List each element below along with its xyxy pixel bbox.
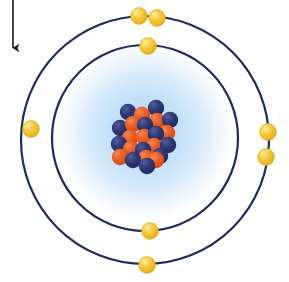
electron-particle[interactable] bbox=[142, 223, 159, 240]
neutron-particle bbox=[139, 158, 155, 174]
atom-diagram-canvas: Bohr model of the atom bbox=[0, 0, 289, 282]
electron-particle[interactable] bbox=[149, 10, 166, 27]
electron-particle[interactable] bbox=[23, 121, 40, 138]
electron-particle[interactable] bbox=[139, 257, 156, 274]
bohr-model-illustration bbox=[0, 0, 289, 282]
electron-particle[interactable] bbox=[140, 38, 157, 55]
electron-particle[interactable] bbox=[258, 149, 275, 166]
neutron-particle bbox=[125, 152, 141, 168]
electron-particle[interactable] bbox=[131, 8, 148, 25]
electron-particle[interactable] bbox=[260, 124, 277, 141]
